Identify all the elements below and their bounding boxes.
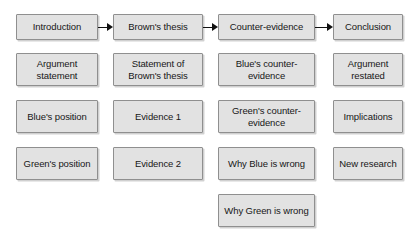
flowchart-header-label: Brown's thesis — [117, 21, 199, 33]
flowchart-node-argument-restated[interactable]: Argument restated — [333, 53, 403, 86]
arrow-right-icon — [315, 25, 333, 29]
flowchart-node-label: Argument statement — [20, 58, 94, 81]
flowchart-node-label: New research — [337, 158, 399, 170]
arrow-shaft — [203, 27, 212, 28]
flowchart-header-introduction[interactable]: Introduction — [16, 14, 98, 40]
flowchart-node-new-research[interactable]: New research — [333, 147, 403, 180]
flowchart-node-label: Argument restated — [337, 58, 399, 81]
flowchart-node-label: Evidence 2 — [117, 158, 199, 170]
flowchart-node-label: Green's position — [20, 158, 94, 170]
flowchart-node-label: Blue's position — [20, 111, 94, 123]
arrow-right-icon — [98, 25, 113, 29]
flowchart-node-evidence-1[interactable]: Evidence 1 — [113, 100, 203, 133]
flowchart-column-conclusion: Conclusion Argument restated Implication… — [333, 0, 403, 238]
flowchart-header-conclusion[interactable]: Conclusion — [333, 14, 403, 40]
flowchart-node-argument-statement[interactable]: Argument statement — [16, 53, 98, 86]
arrow-head — [327, 23, 333, 31]
flowchart-node-implications[interactable]: Implications — [333, 100, 403, 133]
flowchart-header-label: Conclusion — [337, 21, 399, 33]
flowchart-node-blues-position[interactable]: Blue's position — [16, 100, 98, 133]
flowchart-node-label: Implications — [337, 111, 399, 123]
flowchart-column-browns-thesis: Brown's thesis Statement of Brown's thes… — [113, 0, 203, 238]
flowchart-node-evidence-2[interactable]: Evidence 2 — [113, 147, 203, 180]
arrow-shaft — [98, 27, 107, 28]
flowchart-column-introduction: Introduction Argument statement Blue's p… — [16, 0, 98, 238]
flowchart-node-label: Blue's counter-evidence — [222, 58, 311, 81]
flowchart-header-counter-evidence[interactable]: Counter-evidence — [218, 14, 315, 40]
flowchart-header-browns-thesis[interactable]: Brown's thesis — [113, 14, 203, 40]
flowchart-header-label: Counter-evidence — [222, 21, 311, 33]
flowchart-diagram: Introduction Argument statement Blue's p… — [0, 0, 414, 238]
flowchart-node-why-blue-is-wrong[interactable]: Why Blue is wrong — [218, 147, 315, 180]
flowchart-node-label: Statement of Brown's thesis — [117, 58, 199, 81]
flowchart-node-greens-counter-evidence[interactable]: Green's counter-evidence — [218, 100, 315, 133]
flowchart-node-blues-counter-evidence[interactable]: Blue's counter-evidence — [218, 53, 315, 86]
arrow-head — [107, 23, 113, 31]
flowchart-column-counter-evidence: Counter-evidence Blue's counter-evidence… — [218, 0, 315, 238]
flowchart-node-statement-of-browns-thesis[interactable]: Statement of Brown's thesis — [113, 53, 203, 86]
flowchart-node-label: Evidence 1 — [117, 111, 199, 123]
flowchart-node-label: Why Green is wrong — [222, 205, 311, 217]
arrow-head — [212, 23, 218, 31]
flowchart-node-label: Green's counter-evidence — [222, 105, 311, 128]
flowchart-header-label: Introduction — [20, 21, 94, 33]
arrow-right-icon — [203, 25, 218, 29]
flowchart-node-greens-position[interactable]: Green's position — [16, 147, 98, 180]
arrow-shaft — [315, 27, 327, 28]
flowchart-node-why-green-is-wrong[interactable]: Why Green is wrong — [218, 194, 315, 227]
flowchart-node-label: Why Blue is wrong — [222, 158, 311, 170]
